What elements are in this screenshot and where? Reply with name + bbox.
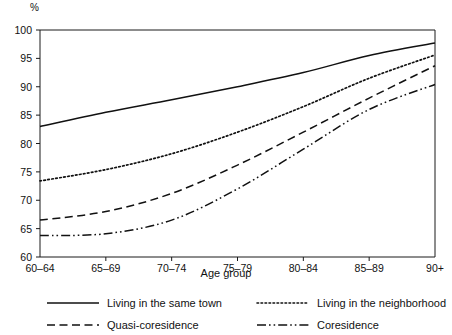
series-line-4 bbox=[40, 84, 435, 235]
y-axis-tick-label: 80 bbox=[6, 139, 32, 149]
y-axis-tick-label: 70 bbox=[6, 195, 32, 205]
legend-line-swatch bbox=[46, 298, 100, 308]
y-axis-tick-label: 90 bbox=[6, 82, 32, 92]
legend-item: Coresidence bbox=[256, 319, 446, 331]
series-line-2 bbox=[40, 55, 435, 181]
legend-label: Living in the neighborhood bbox=[317, 297, 446, 309]
plot-frame bbox=[40, 30, 435, 257]
y-axis-tick-label: 60 bbox=[6, 252, 32, 262]
y-axis-tick-label: 100 bbox=[6, 25, 32, 35]
y-axis-tick-label: 75 bbox=[6, 167, 32, 177]
legend-item: Quasi-coresidence bbox=[46, 319, 256, 331]
x-axis-title: Age group bbox=[0, 267, 452, 279]
legend-line-swatch bbox=[256, 298, 310, 308]
legend-item: Living in the same town bbox=[46, 297, 256, 309]
legend-label: Coresidence bbox=[317, 319, 379, 331]
legend-item: Living in the neighborhood bbox=[256, 297, 446, 309]
legend-label: Living in the same town bbox=[107, 297, 222, 309]
legend-line-swatch bbox=[256, 320, 310, 330]
legend-line-swatch bbox=[46, 320, 100, 330]
y-axis-tick-label: 95 bbox=[6, 53, 32, 63]
series-line-3 bbox=[40, 66, 435, 220]
y-axis-tick-label: 85 bbox=[6, 110, 32, 120]
series-line-1 bbox=[40, 43, 435, 126]
plot-area bbox=[0, 0, 452, 275]
legend-label: Quasi-coresidence bbox=[107, 319, 199, 331]
chart-legend: Living in the same townLiving in the nei… bbox=[46, 292, 436, 335]
y-axis-tick-label: 65 bbox=[6, 224, 32, 234]
chart-canvas bbox=[0, 0, 452, 275]
